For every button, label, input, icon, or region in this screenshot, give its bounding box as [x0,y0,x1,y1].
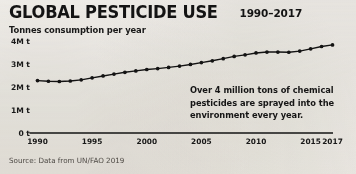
x-axis-tick-label: 2005 [191,137,212,146]
data-point-marker [200,61,204,65]
data-point-marker [221,57,225,61]
data-point-marker [36,79,40,83]
data-point-marker [178,64,182,68]
data-point-marker [112,72,116,76]
data-point-marker [189,63,193,67]
data-point-marker [254,51,258,55]
data-point-marker [79,78,83,82]
data-point-marker [243,53,247,57]
data-point-marker [134,69,138,73]
data-point-marker [101,74,105,78]
data-point-marker [309,47,313,51]
chart-annotation: Over 4 million tons of chemical pesticid… [190,84,350,122]
data-point-marker [287,50,291,54]
x-axis-tick-label: 2010 [246,137,267,146]
y-axis-tick-label: 3M t [2,60,30,69]
data-point-marker [145,68,149,72]
data-point-marker [276,50,280,54]
data-point-marker [331,43,335,47]
data-point-marker [156,67,160,71]
x-axis-tick-label: 1990 [27,137,48,146]
data-point-marker [58,80,62,84]
x-axis-tick-label: 2017 [322,137,343,146]
x-axis-tick-label: 1995 [82,137,103,146]
y-axis-tick-label: 0 t [2,129,30,138]
x-axis-tick-label: 2000 [137,137,158,146]
data-point-marker [232,55,236,59]
data-point-marker [167,66,171,70]
y-axis-tick-label: 2M t [2,83,30,92]
data-point-marker [320,45,324,49]
y-axis-tick-label: 4M t [2,37,30,46]
data-line-series [38,45,333,82]
data-point-marker [210,59,214,63]
infographic-panel: GLOBAL PESTICIDE USE 1990–2017 Tonnes co… [0,0,356,174]
data-point-marker [90,76,94,80]
data-point-marker [68,79,72,83]
data-point-marker [265,50,269,54]
y-axis-tick-label: 1M t [2,106,30,115]
data-point-marker [298,49,302,53]
data-point-marker [47,79,51,83]
data-point-marker [123,70,127,74]
source-note: Source: Data from UN/FAO 2019 [9,156,124,165]
x-axis-tick-label: 2015 [300,137,321,146]
